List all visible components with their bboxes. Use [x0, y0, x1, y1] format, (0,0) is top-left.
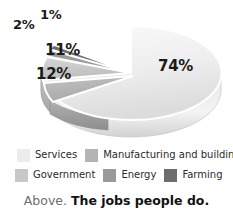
legend-item-government: Government	[15, 169, 95, 182]
pie-chart-svg	[0, 0, 233, 140]
legend-label-manufacturing: Manufacturing and building	[103, 150, 233, 160]
pie-chart-figure: 1% 2% 11% 12% 74% Services Manufacturing…	[0, 0, 233, 219]
legend-label-energy: Energy	[121, 170, 156, 180]
legend-swatch-government	[15, 169, 28, 182]
legend-swatch-farming	[164, 169, 177, 182]
legend-swatch-energy	[103, 169, 116, 182]
figure-caption: Above. The jobs people do.	[0, 193, 233, 208]
pie-chart-plot: 1% 2% 11% 12% 74%	[0, 0, 233, 140]
legend-item-services: Services	[17, 149, 77, 162]
caption-bold-text: The jobs people do.	[71, 193, 209, 208]
pie-label-farming: 1%	[40, 8, 61, 21]
caption-lead-text: Above.	[24, 193, 67, 208]
legend-row: Government Energy Farming	[15, 167, 231, 183]
legend-swatch-manufacturing	[85, 149, 98, 162]
legend-row: Services Manufacturing and building	[17, 147, 233, 163]
pie-label-manufacturing: 12%	[36, 67, 71, 82]
legend-item-manufacturing: Manufacturing and building	[85, 149, 233, 162]
chart-legend: Services Manufacturing and building Gove…	[0, 145, 233, 187]
legend-label-farming: Farming	[182, 170, 222, 180]
legend-item-farming: Farming	[164, 169, 222, 182]
legend-item-energy: Energy	[103, 169, 156, 182]
legend-label-government: Government	[33, 170, 95, 180]
legend-label-services: Services	[35, 150, 77, 160]
legend-swatch-services	[17, 149, 30, 162]
pie-label-services: 74%	[158, 59, 193, 74]
pie-label-government: 11%	[45, 43, 80, 58]
pie-label-energy: 2%	[13, 18, 34, 31]
